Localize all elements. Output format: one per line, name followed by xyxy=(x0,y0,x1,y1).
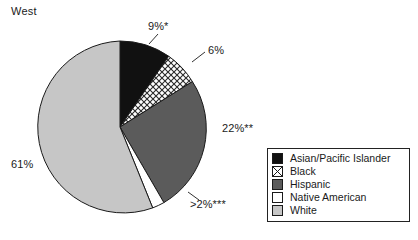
legend-item-white: White xyxy=(272,204,317,217)
legend-item-hispanic: Hispanic xyxy=(272,178,330,191)
slice-label-white: 61% xyxy=(11,158,33,170)
legend-swatch-white xyxy=(272,205,283,216)
legend-item-black: Black xyxy=(272,165,316,178)
legend-label-hispanic: Hispanic xyxy=(290,179,330,190)
slice-label-hispanic: 22%** xyxy=(222,122,253,134)
slice-label-asian-pacific-islander: 9%* xyxy=(148,20,168,32)
legend-item-asian-pacific-islander: Asian/Pacific Islander xyxy=(272,152,390,165)
pie-slices xyxy=(38,41,207,213)
slice-label-native-american: >2%*** xyxy=(190,198,226,210)
legend-label-native-american: Native American xyxy=(290,192,366,203)
legend-swatch-black xyxy=(272,166,283,177)
legend: Asian/Pacific Islander Black Hispanic Na… xyxy=(267,148,410,222)
pie-chart-figure: West 9%* 6% 22%** >2%*** 61% Asian/Paci xyxy=(0,0,418,240)
legend-label-asian-pacific-islander: Asian/Pacific Islander xyxy=(290,153,390,164)
legend-swatch-asian-pacific-islander xyxy=(272,153,283,164)
slice-label-black: 6% xyxy=(208,44,224,56)
legend-label-black: Black xyxy=(290,166,316,177)
crosshatch-icon xyxy=(273,167,282,176)
legend-label-white: White xyxy=(290,205,317,216)
legend-swatch-native-american xyxy=(272,192,283,203)
legend-item-native-american: Native American xyxy=(272,191,366,204)
legend-swatch-hispanic xyxy=(272,179,283,190)
